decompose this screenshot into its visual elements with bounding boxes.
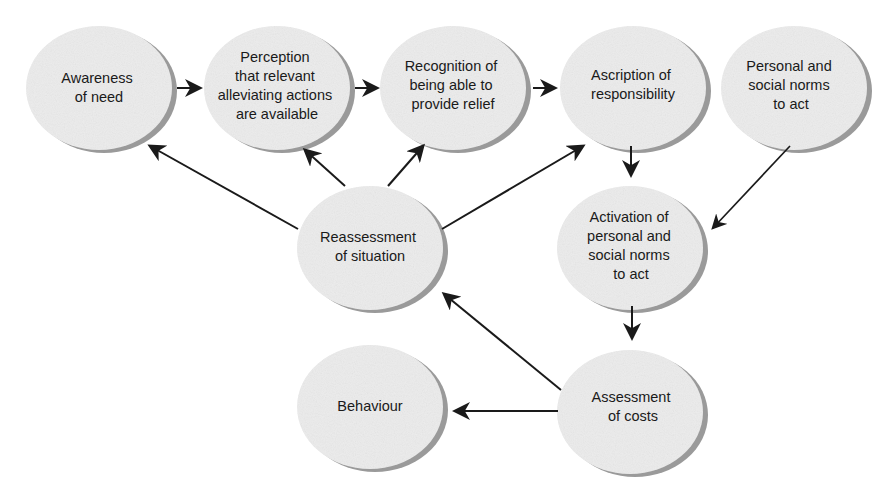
svg-text:Behaviour: Behaviour [337,398,402,414]
node-label-line: to act [613,266,648,282]
node-label-line: social norms [748,77,829,93]
node-label-line: of situation [335,248,405,264]
node-label-line: Ascription of [591,67,672,83]
node-label-line: personal and [587,228,671,244]
node-perception-actions-available: Perception that relevant alleviating act… [204,26,355,153]
node-label-line: Perception [240,49,309,65]
node-behaviour: Behaviour [297,345,448,472]
node-label-line: to act [773,96,808,112]
node-label-line: that relevant [235,68,315,84]
arrow-reassessment-to-recognition [388,146,423,186]
node-reassessment-of-situation: Reassessment of situation [297,186,448,313]
node-label-line: Assessment [591,389,670,405]
node-ascription-of-responsibility: Ascription of responsibility [560,26,711,153]
node-activation-of-norms: Activation of personal and social norms … [557,186,708,313]
node-recognition-provide-relief: Recognition of being able to provide rel… [380,26,531,153]
node-label-line: responsibility [591,86,676,102]
node-label-line: social norms [588,247,669,263]
node-label-line: provide relief [411,96,495,112]
node-awareness-of-need: Awareness of need [26,26,177,153]
node-label-line: of costs [608,408,658,424]
node-assessment-of-costs: Assessment of costs [557,350,708,477]
node-label-line: Behaviour [337,398,402,414]
node-label-line: Reassessment [320,229,416,245]
node-label-line: Activation of [589,209,669,225]
node-label-line: Awareness [61,70,132,86]
node-label-line: alleviating actions [218,87,332,103]
altruism-flow-diagram: Awareness of need Perception that releva… [0,0,887,496]
arrow-reassessment-to-perception [305,150,345,186]
node-label-line: are available [236,106,318,122]
arrow-assessment-to-reassessment [444,294,561,390]
node-label-line: being able to [409,77,492,93]
arrow-reassessment-to-awareness [150,146,298,229]
node-personal-social-norms: Personal and social norms to act [721,26,872,153]
node-label-line: of need [75,89,123,105]
arrow-reassessment-to-ascription [442,146,583,229]
node-label-line: Personal and [746,58,831,74]
node-label-line: Recognition of [405,58,499,74]
arrow-personal-norms-to-activation [713,146,790,228]
svg-text:Recognition of being abl: Recognition of being able to provide rel… [405,58,502,112]
